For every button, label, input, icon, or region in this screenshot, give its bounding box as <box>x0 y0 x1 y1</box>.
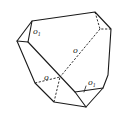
label-o1-top-left: o1 <box>33 27 41 37</box>
label-o1-lower-right: o1 <box>88 78 96 88</box>
label-o-center: o <box>73 46 78 55</box>
label-o-lower-left: o <box>44 73 49 82</box>
visible-edges <box>17 12 111 107</box>
crystal-diagram: o1 o o o1 <box>0 0 121 118</box>
